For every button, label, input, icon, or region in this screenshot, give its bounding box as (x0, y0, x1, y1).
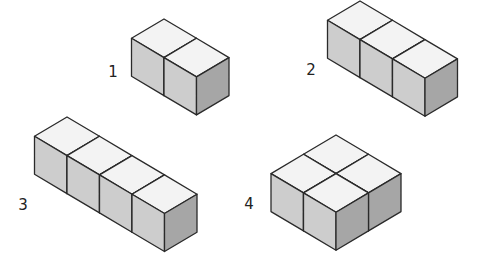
shape-1-cubes (132, 19, 230, 115)
cube-diagram (0, 0, 484, 255)
shape-3-label: 3 (18, 196, 28, 214)
shape-3-cubes (35, 117, 198, 252)
shape-4-cubes (271, 135, 401, 250)
shape-2-label: 2 (306, 61, 316, 79)
shape-2-cubes (328, 1, 458, 116)
shape-1-label: 1 (108, 63, 118, 81)
shape-4-label: 4 (244, 195, 254, 213)
